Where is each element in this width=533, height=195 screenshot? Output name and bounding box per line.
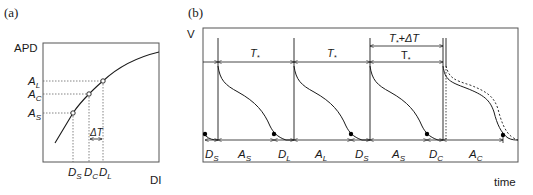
restitution-curve (55, 52, 159, 143)
shifted-action-potential (446, 66, 518, 140)
action-potentials (203, 66, 518, 140)
point-as (71, 111, 75, 115)
extended-period-label: T*+ΔT (389, 32, 420, 46)
interval-label-dc: DC (429, 148, 443, 163)
guide-lines (43, 81, 103, 162)
apd-axis-label: APD (14, 42, 38, 54)
panel-a-plot-frame (43, 43, 159, 162)
figure-canvas: (a) APD DI AL AC AS DS DC DL ΔT (0, 0, 533, 195)
point-al (101, 79, 105, 83)
v-axis-label: V (187, 28, 195, 40)
interval-label-dl: DL (278, 148, 291, 163)
xtick-ds: DS (68, 166, 82, 181)
interval-label-al: AL (314, 148, 327, 163)
ytick-ac: AC (27, 88, 42, 103)
di-axis-label: DI (150, 174, 162, 186)
delta-t-label: ΔT (89, 127, 104, 138)
xtick-dc: DC (84, 166, 98, 181)
interval-label-as-1: AS (237, 148, 252, 163)
interval-label-ac: AC (468, 148, 483, 163)
interval-arrows (205, 137, 503, 143)
panel-a-label: (a) (4, 5, 18, 20)
interval-label-ds-2: DS (355, 148, 369, 163)
period-label-2: T* (327, 47, 337, 61)
xtick-dl: DL (99, 166, 112, 181)
panel-a: (a) APD DI AL AC AS DS DC DL ΔT (4, 5, 162, 186)
period-label-1: T* (250, 47, 260, 61)
panel-b: (b) V time T* T* T* T*+ΔT (187, 5, 518, 188)
interval-label-as-2: AS (391, 148, 406, 163)
time-axis-label: time (494, 176, 516, 188)
panel-b-label: (b) (188, 5, 203, 20)
period-label-3: T* (401, 49, 411, 63)
point-ac (87, 92, 91, 96)
interval-label-ds-1: DS (205, 148, 219, 163)
ytick-as: AS (27, 107, 42, 122)
